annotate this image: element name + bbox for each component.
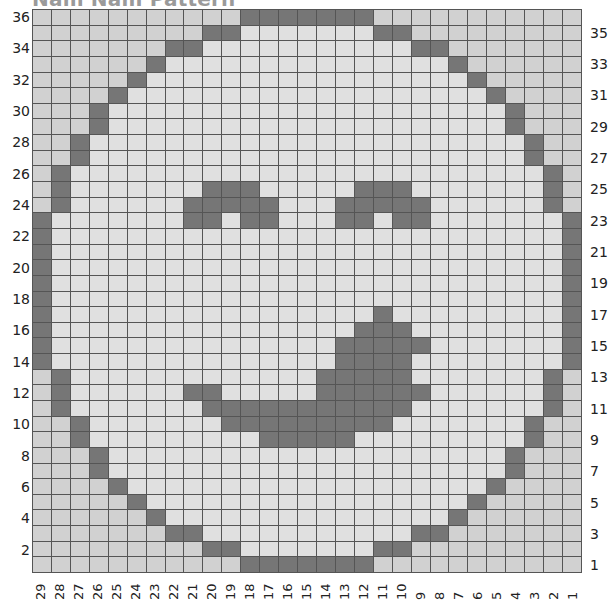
stitch-cell-light bbox=[241, 307, 259, 322]
stitch-cell-light bbox=[241, 41, 259, 56]
stitch-cell-light bbox=[563, 104, 581, 119]
stitch-cell-light bbox=[109, 354, 127, 369]
stitch-cell-dark bbox=[355, 401, 373, 416]
stitch-cell-dark bbox=[393, 323, 411, 338]
stitch-cell-light bbox=[336, 151, 354, 166]
stitch-cell-light bbox=[184, 370, 202, 385]
stitch-cell-light bbox=[279, 370, 297, 385]
stitch-cell-light bbox=[506, 213, 524, 228]
stitch-cell-dark bbox=[203, 182, 221, 197]
stitch-cell-light bbox=[109, 276, 127, 291]
stitch-cell-light bbox=[506, 479, 524, 494]
stitch-cell-light bbox=[317, 73, 335, 88]
stitch-cell-light bbox=[449, 307, 467, 322]
stitch-cell-light bbox=[166, 26, 184, 41]
stitch-cell-light bbox=[374, 229, 392, 244]
stitch-cell-light bbox=[449, 26, 467, 41]
stitch-cell-light bbox=[166, 198, 184, 213]
stitch-cell-light bbox=[487, 323, 505, 338]
stitch-cell-light bbox=[374, 10, 392, 25]
stitch-cell-light bbox=[506, 26, 524, 41]
stitch-cell-light bbox=[52, 119, 70, 134]
stitch-cell-light bbox=[33, 432, 51, 447]
stitch-cell-dark bbox=[317, 10, 335, 25]
stitch-cell-light bbox=[147, 542, 165, 557]
stitch-cell-light bbox=[90, 182, 108, 197]
stitch-cell-light bbox=[449, 213, 467, 228]
stitch-cell-light bbox=[260, 338, 278, 353]
stitch-cell-light bbox=[147, 417, 165, 432]
stitch-cell-light bbox=[184, 151, 202, 166]
stitch-cell-light bbox=[298, 354, 316, 369]
stitch-cell-dark bbox=[449, 510, 467, 525]
stitch-cell-light bbox=[128, 542, 146, 557]
stitch-cell-light bbox=[90, 338, 108, 353]
stitch-cell-light bbox=[449, 323, 467, 338]
stitch-cell-light bbox=[52, 229, 70, 244]
stitch-cell-light bbox=[355, 260, 373, 275]
stitch-cell-light bbox=[317, 495, 335, 510]
stitch-cell-dark bbox=[260, 10, 278, 25]
stitch-cell-light bbox=[336, 526, 354, 541]
stitch-cell-light bbox=[544, 526, 562, 541]
stitch-cell-light bbox=[563, 479, 581, 494]
stitch-cell-light bbox=[544, 260, 562, 275]
stitch-cell-light bbox=[166, 135, 184, 150]
stitch-cell-light bbox=[468, 401, 486, 416]
stitch-cell-light bbox=[468, 213, 486, 228]
stitch-cell-dark bbox=[506, 448, 524, 463]
stitch-cell-light bbox=[109, 401, 127, 416]
stitch-cell-light bbox=[166, 292, 184, 307]
stitch-cell-light bbox=[487, 198, 505, 213]
stitch-cell-dark bbox=[222, 198, 240, 213]
stitch-cell-light bbox=[431, 88, 449, 103]
row-label: 9 bbox=[590, 433, 599, 447]
stitch-cell-light bbox=[393, 135, 411, 150]
stitch-cell-light bbox=[525, 73, 543, 88]
stitch-cell-light bbox=[563, 495, 581, 510]
stitch-cell-light bbox=[412, 26, 430, 41]
stitch-cell-light bbox=[468, 245, 486, 260]
stitch-cell-dark bbox=[298, 557, 316, 572]
stitch-cell-light bbox=[525, 495, 543, 510]
stitch-cell-light bbox=[336, 229, 354, 244]
stitch-cell-light bbox=[298, 542, 316, 557]
stitch-cell-light bbox=[90, 495, 108, 510]
stitch-cell-light bbox=[412, 135, 430, 150]
stitch-cell-light bbox=[33, 510, 51, 525]
stitch-cell-light bbox=[166, 260, 184, 275]
stitch-cell-light bbox=[184, 135, 202, 150]
stitch-cell-light bbox=[317, 338, 335, 353]
stitch-cell-light bbox=[393, 245, 411, 260]
stitch-cell-dark bbox=[525, 417, 543, 432]
stitch-cell-light bbox=[109, 557, 127, 572]
stitch-cell-light bbox=[431, 198, 449, 213]
stitch-cell-dark bbox=[222, 401, 240, 416]
stitch-cell-light bbox=[90, 510, 108, 525]
stitch-cell-light bbox=[298, 323, 316, 338]
stitch-cell-light bbox=[90, 229, 108, 244]
stitch-cell-light bbox=[525, 448, 543, 463]
stitch-cell-light bbox=[52, 510, 70, 525]
stitch-cell-light bbox=[355, 151, 373, 166]
stitch-cell-light bbox=[90, 542, 108, 557]
stitch-cell-light bbox=[203, 41, 221, 56]
stitch-cell-light bbox=[412, 104, 430, 119]
stitch-cell-light bbox=[33, 26, 51, 41]
stitch-cell-light bbox=[184, 557, 202, 572]
row-label: 20 bbox=[0, 261, 35, 275]
stitch-cell-light bbox=[279, 151, 297, 166]
stitch-cell-light bbox=[468, 88, 486, 103]
stitch-cell-light bbox=[279, 542, 297, 557]
stitch-cell-dark bbox=[506, 104, 524, 119]
stitch-cell-light bbox=[241, 432, 259, 447]
stitch-cell-light bbox=[298, 495, 316, 510]
stitch-cell-dark bbox=[487, 479, 505, 494]
stitch-cell-light bbox=[147, 307, 165, 322]
stitch-cell-light bbox=[184, 307, 202, 322]
stitch-cell-light bbox=[33, 166, 51, 181]
stitch-cell-light bbox=[431, 307, 449, 322]
stitch-cell-light bbox=[260, 292, 278, 307]
stitch-cell-light bbox=[52, 307, 70, 322]
stitch-cell-light bbox=[317, 464, 335, 479]
